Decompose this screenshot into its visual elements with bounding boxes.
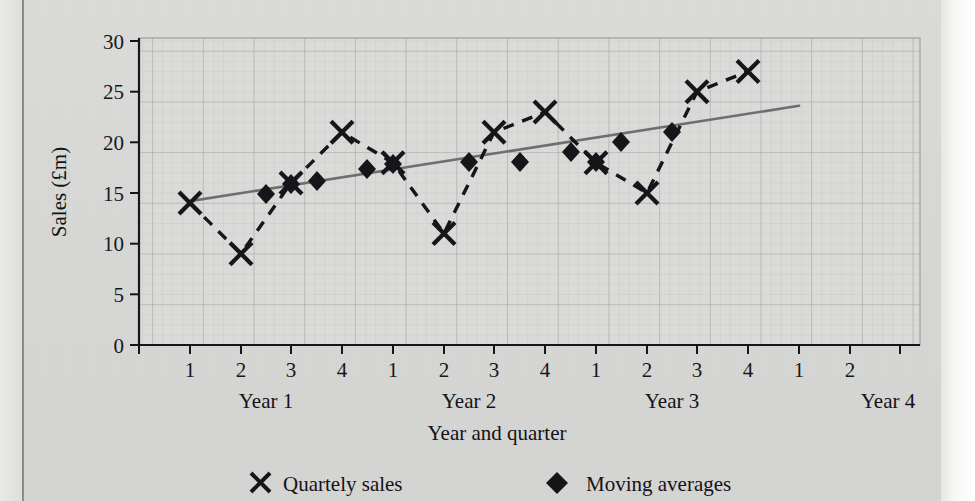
- y-tick-label: 5: [114, 283, 125, 307]
- y-tick-label: 15: [103, 182, 124, 206]
- legend-x-cross-icon: [251, 473, 270, 492]
- x-quarter-label: 2: [439, 358, 450, 382]
- y-tick-label: 0: [114, 334, 125, 358]
- time-series-chart-figure: 30 25 20 15 10 5 0 Sales (£m): [0, 0, 975, 501]
- legend-label-moving-averages: Moving averages: [586, 472, 731, 496]
- x-quarter-label: 3: [489, 358, 500, 382]
- x-axis-title: Year and quarter: [428, 421, 567, 445]
- year-group-label: Year 4: [861, 389, 916, 413]
- chart-svg: 30 25 20 15 10 5 0 Sales (£m): [0, 0, 975, 501]
- legend-diamond-icon: [546, 472, 568, 494]
- x-quarter-label: 2: [642, 358, 653, 382]
- year-group-label: Year 1: [239, 389, 293, 413]
- y-tick-label: 10: [103, 232, 124, 256]
- x-quarter-label: 1: [591, 358, 602, 382]
- y-tick-label: 25: [103, 80, 124, 104]
- x-quarter-label: 4: [540, 358, 551, 382]
- x-quarter-label: 1: [794, 358, 805, 382]
- x-year-group-labels: Year 1 Year 2 Year 3 Year 4: [239, 389, 916, 413]
- x-quarter-label: 2: [845, 358, 856, 382]
- x-quarter-label: 4: [337, 358, 348, 382]
- legend-label-quarterly-sales: Quartely sales: [283, 472, 403, 496]
- x-quarter-label: 1: [388, 358, 399, 382]
- chart-legend: Quartely sales Moving averages: [251, 472, 731, 496]
- y-tick-label: 20: [103, 131, 124, 155]
- year-group-label: Year 2: [442, 389, 496, 413]
- x-quarter-label: 4: [743, 358, 754, 382]
- year-group-label: Year 3: [645, 389, 699, 413]
- x-quarter-labels: 1 2 3 4 1 2 3 4 1 2 3 4 1 2: [185, 358, 856, 382]
- x-quarter-label: 1: [185, 358, 196, 382]
- x-quarter-label: 3: [692, 358, 703, 382]
- y-axis: [130, 38, 139, 345]
- x-quarter-label: 2: [236, 358, 247, 382]
- y-tick-label: 30: [103, 30, 124, 54]
- x-quarter-label: 3: [286, 358, 297, 382]
- y-axis-title: Sales (£m): [47, 147, 71, 237]
- y-tick-labels: 30 25 20 15 10 5 0: [103, 30, 124, 358]
- x-axis: [139, 345, 920, 354]
